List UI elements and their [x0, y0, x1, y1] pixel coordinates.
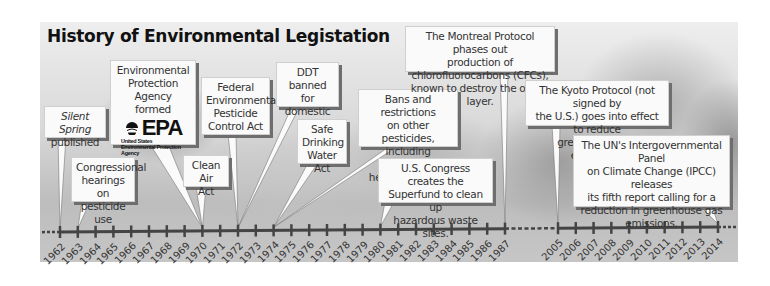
event-text: Agency [121, 150, 191, 156]
event-superfund: U.S. Congress creates the Superfund to c… [378, 158, 493, 203]
event-text: hearings on [76, 174, 130, 200]
event-text: Water Act [302, 149, 342, 175]
event-text: pesticide use [76, 200, 130, 226]
event-clean-air-act: Clean Air Act [183, 155, 229, 187]
event-text: reduction in greenhouse gas [578, 204, 725, 217]
event-text: published [49, 136, 101, 149]
event-ipcc-report: The UN's Intergovernmental Panel on Clim… [573, 135, 730, 207]
event-text: emissions. [578, 217, 725, 230]
event-text: The UN's Intergovernmental Panel [578, 139, 725, 165]
event-text: DDT [281, 66, 334, 79]
event-text: The Montreal Protocol phases out [410, 30, 550, 56]
pointer-silent-spring [58, 137, 66, 229]
event-text: production of chlorofluorocarbons (CFCs)… [410, 56, 550, 82]
event-text: Superfund to clean up [383, 188, 488, 214]
event-fepca: Federal Environmental Pesticide Control … [201, 77, 270, 135]
event-text: on other pesticides, [363, 119, 453, 145]
event-epa-formed: Environmental Protection Agency formed E… [110, 60, 196, 145]
epa-subtitle: United States Environmental Protection A… [115, 138, 191, 156]
event-congressional-hearings: Congressional hearings on pesticide use [71, 157, 135, 202]
epa-wordmark: EPA [142, 118, 183, 138]
event-text: Environmental [115, 64, 191, 77]
event-text: Silent Spring [49, 110, 101, 136]
event-kyoto-protocol: The Kyoto Protocol (not signed by the U.… [525, 80, 669, 126]
event-text: Congressional [76, 161, 130, 174]
event-silent-spring: Silent Spring published [44, 106, 106, 138]
event-text: on Climate Change (IPCC) releases [578, 165, 725, 191]
event-text: banned for [281, 79, 334, 105]
event-text: Federal [206, 81, 265, 94]
event-text: Pesticide [206, 107, 265, 120]
event-safe-drinking-water-act: Safe Drinking Water Act [297, 119, 347, 164]
event-text: Protection Agency [115, 77, 191, 103]
event-text: hazardous waste sites. [383, 214, 488, 240]
event-text: its fifth report calling for a [578, 191, 725, 204]
pointer-fepca [228, 134, 238, 228]
epa-logo: EPA [115, 118, 191, 138]
event-text: Drinking [302, 136, 342, 149]
event-ddt-banned: DDT banned for domestic use [276, 62, 339, 107]
event-montreal-protocol: The Montreal Protocol phases out product… [405, 26, 555, 72]
event-text: Safe [302, 123, 342, 136]
event-text: Environmental [206, 94, 265, 107]
epa-flower-icon [124, 121, 140, 135]
event-text: Act [188, 185, 224, 198]
event-text: Clean Air [188, 159, 224, 185]
event-text: the U.S.) goes into effect to reduce [530, 110, 664, 136]
event-text: U.S. Congress creates the [383, 162, 488, 188]
event-text: Control Act [206, 120, 265, 133]
event-text: The Kyoto Protocol (not signed by [530, 84, 664, 110]
